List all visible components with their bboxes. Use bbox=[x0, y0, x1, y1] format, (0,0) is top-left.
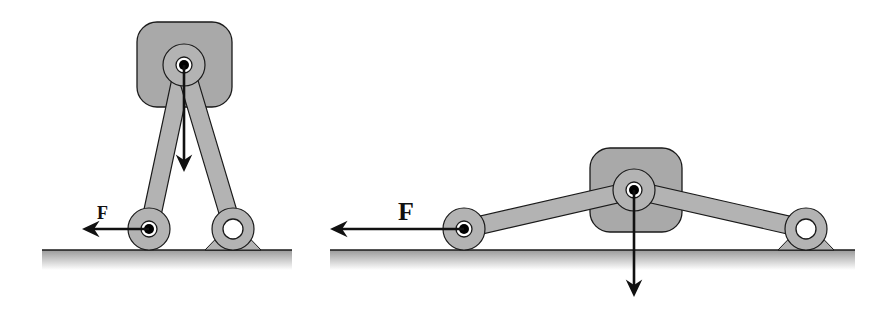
ground-hatch bbox=[42, 250, 292, 270]
force-label: F bbox=[97, 203, 108, 223]
force-label: F bbox=[398, 197, 414, 226]
figure-right: F bbox=[330, 148, 855, 297]
toggle-mechanism-diagram: FF bbox=[0, 0, 879, 310]
fixed-pin-hole-icon bbox=[796, 219, 816, 239]
fixed-pin-hole-icon bbox=[223, 219, 243, 239]
figure-left: F bbox=[42, 22, 292, 270]
ground-hatch bbox=[330, 250, 855, 270]
